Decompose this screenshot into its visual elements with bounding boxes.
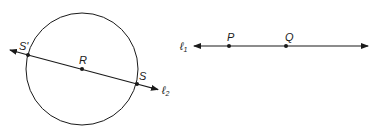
label-q: Q [285,31,294,43]
right-figure: P Q ℓ1 [179,31,368,53]
point-s [135,82,139,86]
label-l1: ℓ1 [179,40,188,53]
label-s-prime: S' [19,40,29,52]
point-q [284,44,288,48]
label-l2: ℓ2 [161,84,170,97]
label-p: P [227,31,235,43]
point-r [80,67,84,71]
label-r: R [79,54,87,66]
point-s-prime [26,53,30,57]
left-figure: S' R S ℓ2 [10,13,170,125]
label-s: S [139,70,147,82]
line-l2-right [137,84,158,90]
geometry-diagram: S' R S ℓ2 P Q ℓ1 [0,0,378,137]
point-p [227,44,231,48]
